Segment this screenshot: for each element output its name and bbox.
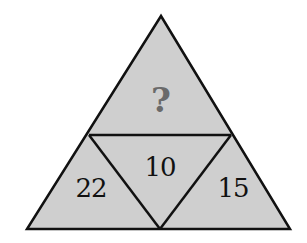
- center-cell-number: 10: [144, 154, 175, 180]
- top-cell-question-mark: ?: [151, 83, 171, 117]
- bottom-right-cell-number: 15: [217, 175, 248, 201]
- outer-triangle: [27, 16, 290, 229]
- puzzle-canvas: ? 22 10 15: [0, 0, 307, 243]
- bottom-left-cell-number: 22: [75, 175, 106, 201]
- triangle-diagram: [0, 0, 307, 243]
